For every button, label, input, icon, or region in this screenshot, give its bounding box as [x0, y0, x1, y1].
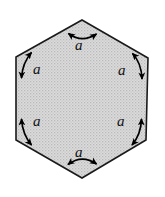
hexagon-figure: a a a a a a [0, 0, 165, 197]
angle-label-top-left: a [33, 62, 41, 77]
angle-label-top-right: a [118, 63, 126, 78]
angle-label-top: a [75, 38, 83, 53]
hexagon-diagram-svg [0, 0, 165, 197]
angle-label-bottom-left: a [33, 114, 41, 129]
angle-label-bottom: a [75, 145, 83, 160]
angle-label-bottom-right: a [117, 114, 125, 129]
